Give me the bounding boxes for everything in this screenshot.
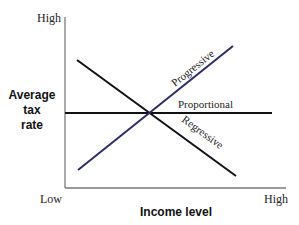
x-tick-low: Low — [40, 192, 62, 207]
x-axis-title: Income level — [140, 205, 212, 219]
y-axis-title-line-1: Average — [2, 88, 62, 103]
y-axis-title: Average tax rate — [2, 88, 62, 133]
y-axis-title-line-2: tax — [2, 103, 62, 118]
y-axis-title-line-3: rate — [2, 118, 62, 133]
tax-rate-chart: Progressive Proportional Regressive High… — [0, 0, 299, 225]
regressive-line — [77, 60, 236, 176]
regressive-label: Regressive — [180, 113, 226, 151]
x-tick-high: High — [264, 192, 288, 207]
y-tick-high: High — [37, 11, 61, 26]
progressive-label: Progressive — [169, 47, 217, 89]
proportional-label: Proportional — [178, 98, 233, 110]
